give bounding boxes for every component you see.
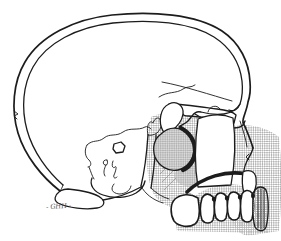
skull-illustration: - GHH - [0,0,281,241]
temporal-descender [89,167,94,179]
sphenoid-wavy-line [159,85,195,97]
mastoid-bump-outline [91,178,145,197]
petrous-squiggle-a [103,160,107,176]
skull-line-art [0,0,281,241]
temporal-left-hook [85,145,91,167]
temporal-ridge-line [162,82,232,101]
petrous-squiggle-b [112,161,117,178]
tooth-incisor-shaded [253,187,269,231]
tooth-molar-1 [171,195,199,227]
acoustic-meatus-opening [113,142,125,153]
